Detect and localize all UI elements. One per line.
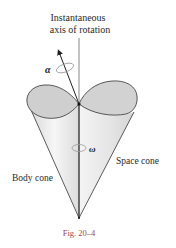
cone-apex (78, 217, 80, 219)
body-cone-label: Body cone (12, 173, 53, 183)
space-cone-label: Space cone (116, 156, 159, 166)
axis-title-line2: axis of rotation (50, 24, 111, 35)
figure-caption: Fig. 20–4 (63, 228, 96, 238)
alpha-label: α (45, 64, 51, 75)
omega-label: ω (89, 144, 96, 154)
axis-title-line1: Instantaneous (51, 12, 106, 23)
figure-20-4: Instantaneous axis of rotation α ω Space… (0, 0, 176, 248)
